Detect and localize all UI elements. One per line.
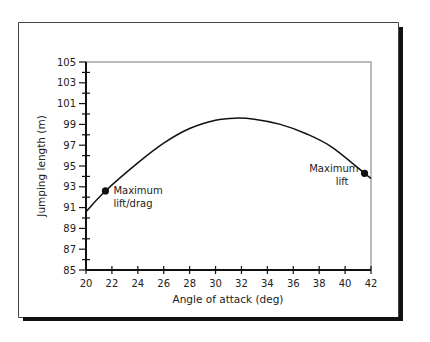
- y-tick-label: 105: [57, 57, 76, 68]
- x-tick-label: 26: [157, 278, 170, 289]
- x-tick-label: 30: [209, 278, 222, 289]
- x-tick-label: 38: [313, 278, 326, 289]
- x-tick-label: 42: [365, 278, 378, 289]
- annotations: Maximumlift/dragMaximumlift: [102, 163, 368, 209]
- x-tick-label: 36: [287, 278, 300, 289]
- y-tick-label: 95: [63, 161, 76, 172]
- y-tick-label: 101: [57, 98, 76, 109]
- y-tick-label: 89: [63, 223, 76, 234]
- y-tick-label: 91: [63, 202, 76, 213]
- frame-shadow-bottom: [23, 317, 403, 321]
- annotation-label: Maximum: [113, 185, 162, 196]
- x-tick-label: 28: [183, 278, 196, 289]
- x-axis-label: Angle of attack (deg): [173, 293, 284, 305]
- x-tick-label: 34: [261, 278, 274, 289]
- annotation-label: lift: [336, 176, 349, 187]
- x-tick-label: 22: [106, 278, 119, 289]
- y-tick-label: 85: [63, 265, 76, 276]
- annotation-marker: [361, 170, 368, 177]
- y-axis-label: Jumping length (m): [35, 115, 47, 217]
- annotation-label: lift/drag: [113, 198, 152, 209]
- y-tick-label: 99: [63, 119, 76, 130]
- y-tick-label: 97: [63, 140, 76, 151]
- y-tick-label: 93: [63, 181, 76, 192]
- annotation-marker: [102, 187, 109, 194]
- chart-svg: 8587899193959799101103105 20222426283032…: [0, 0, 430, 342]
- x-tick-label: 24: [131, 278, 144, 289]
- y-tick-label: 87: [63, 244, 76, 255]
- x-tick-label: 32: [235, 278, 248, 289]
- annotation-label: Maximum: [309, 163, 358, 174]
- x-tick-label: 20: [80, 278, 93, 289]
- y-tick-label: 103: [57, 77, 76, 88]
- x-tick-label: 40: [339, 278, 352, 289]
- frame-shadow-right: [399, 27, 403, 321]
